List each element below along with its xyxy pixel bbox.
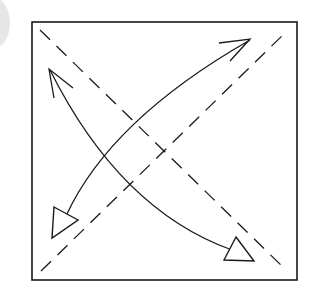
valley-fold-diagonal-tl-br [40, 30, 286, 270]
fold-unfold-arrow-bl-tr [52, 39, 250, 238]
arrowhead-open-icon [49, 69, 73, 98]
fold-diagram [0, 0, 316, 294]
fold-unfold-arrow-tl-br [49, 69, 254, 261]
arrowhead-hollow-icon [52, 207, 78, 238]
valley-fold-diagonal-bl-tr [41, 32, 286, 271]
